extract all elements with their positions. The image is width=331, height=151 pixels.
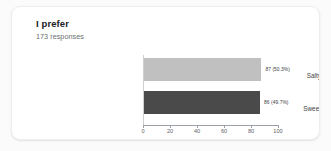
x-axis-line [143,125,279,126]
response-count: 173 responses [36,31,236,42]
bar-value-sweet: 86 (49.7%) [264,100,288,105]
category-label-salty: Salty [275,72,320,79]
chart-card: I prefer 173 responses Salty Sweet 87 (5… [11,6,320,140]
bar-sweet[interactable] [144,91,260,114]
x-tick-label-40: 40 [194,128,200,134]
bar-salty[interactable] [144,58,261,81]
x-tick-label-0: 0 [141,128,144,134]
page-title: I prefer [36,18,236,30]
chart-header: I prefer 173 responses [36,18,236,42]
x-tick-label-20: 20 [167,128,173,134]
category-label-sweet: Sweet [275,105,320,112]
bar-chart-plot: Salty Sweet 87 (50.3%) 86 (49.7%) 020406… [12,55,320,140]
x-tick-label-60: 60 [221,128,227,134]
x-tick-label-100: 100 [273,128,282,134]
x-tick-label-80: 80 [248,128,254,134]
bar-value-salty: 87 (50.3%) [265,67,289,72]
